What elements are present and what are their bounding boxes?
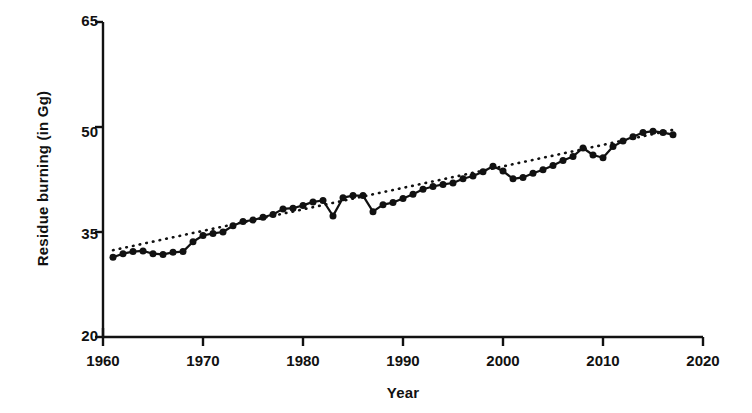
- data-point: [170, 249, 177, 256]
- data-point: [640, 129, 647, 136]
- data-point: [570, 153, 577, 160]
- data-point: [330, 212, 337, 219]
- data-point: [380, 201, 387, 208]
- data-point: [160, 251, 167, 258]
- data-point: [450, 180, 457, 187]
- data-point: [110, 254, 117, 261]
- data-point: [420, 186, 427, 193]
- data-point: [550, 162, 557, 169]
- data-point: [650, 128, 657, 135]
- data-point: [440, 181, 447, 188]
- axis-lines: [95, 22, 703, 346]
- data-point: [240, 218, 247, 225]
- data-point: [580, 145, 587, 152]
- data-point: [120, 250, 127, 257]
- data-point: [370, 208, 377, 215]
- data-point: [210, 230, 217, 237]
- data-point: [620, 138, 627, 145]
- data-point: [310, 198, 317, 205]
- data-point: [660, 129, 667, 136]
- data-point: [630, 133, 637, 140]
- data-point: [560, 157, 567, 164]
- data-point: [590, 152, 597, 159]
- data-point: [480, 168, 487, 175]
- data-point: [510, 175, 517, 182]
- data-point: [150, 250, 157, 257]
- data-point: [250, 217, 257, 224]
- data-point: [320, 197, 327, 204]
- series-line-residue-burning: [113, 131, 673, 257]
- trend-line: [113, 130, 673, 250]
- data-point: [190, 238, 197, 245]
- data-point: [180, 248, 187, 255]
- data-point: [520, 174, 527, 181]
- data-point: [290, 205, 297, 212]
- data-point: [490, 163, 497, 170]
- data-point: [670, 131, 677, 138]
- data-point: [140, 247, 147, 254]
- data-point: [500, 168, 507, 175]
- data-point: [610, 143, 617, 150]
- data-point: [280, 205, 287, 212]
- data-point: [200, 232, 207, 239]
- data-point: [530, 170, 537, 177]
- data-point: [470, 173, 477, 180]
- data-point: [390, 199, 397, 206]
- data-point: [350, 192, 357, 199]
- data-point: [600, 154, 607, 161]
- data-point: [270, 211, 277, 218]
- data-point: [460, 175, 467, 182]
- plot-area: [0, 0, 752, 413]
- data-point: [300, 202, 307, 209]
- data-point: [360, 192, 367, 199]
- data-point: [130, 248, 137, 255]
- data-point: [400, 195, 407, 202]
- data-point: [230, 222, 237, 229]
- chart-figure: Residue burning (in Gg) Year 65 50 35 20…: [0, 0, 752, 413]
- data-point: [220, 229, 227, 236]
- data-point: [260, 214, 267, 221]
- data-point: [430, 183, 437, 190]
- data-point: [410, 191, 417, 198]
- data-point: [540, 166, 547, 173]
- data-point: [340, 194, 347, 201]
